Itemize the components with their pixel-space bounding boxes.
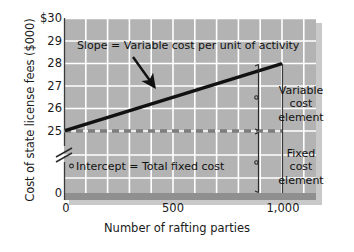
variable-cost-label-line-3: element bbox=[262, 111, 340, 124]
fixed-cost-label-line-3: element bbox=[262, 174, 340, 187]
intercept-annotation-text: Intercept = Total fixed cost bbox=[76, 161, 224, 174]
x-axis-title: Number of rafting parties bbox=[0, 221, 354, 235]
x-axis-tick-labels: 0 500 1,000 bbox=[0, 0, 354, 252]
fixed-cost-label-line-1: Fixed bbox=[262, 147, 340, 160]
fixed-cost-label-line-2: cost bbox=[262, 160, 340, 173]
variable-cost-label-line-2: cost bbox=[262, 97, 340, 110]
x-tick-label-0: 0 bbox=[36, 203, 96, 215]
slope-annotation-text: Slope = Variable cost per unit of activi… bbox=[77, 40, 299, 53]
fixed-cost-element-label: Fixed cost element bbox=[262, 147, 340, 187]
x-tick-label-500: 500 bbox=[143, 203, 203, 215]
variable-cost-element-label: Variable cost element bbox=[262, 84, 340, 124]
chart-figure: Cost of state license fees ($000) $30 29… bbox=[0, 0, 354, 252]
x-tick-label-1000: 1,000 bbox=[253, 203, 313, 215]
variable-cost-label-line-1: Variable bbox=[262, 84, 340, 97]
